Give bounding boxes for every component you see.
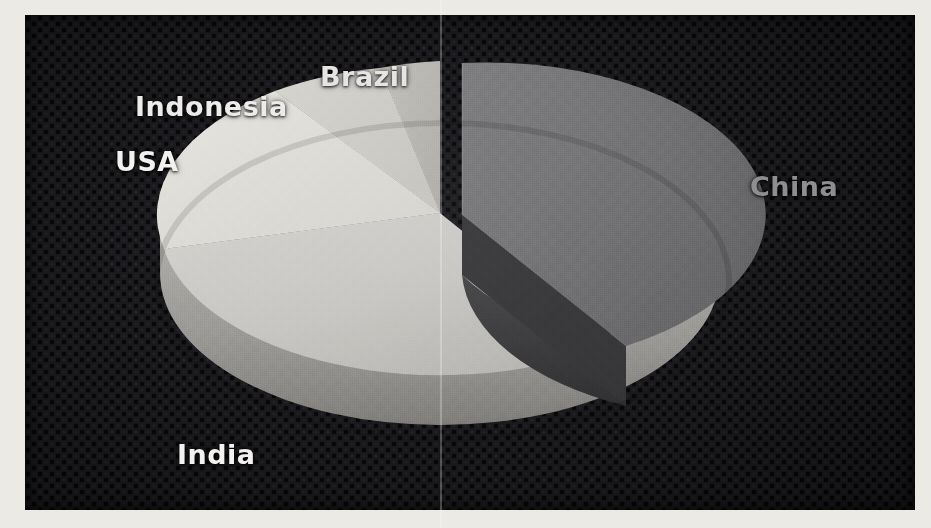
pie-chart-graphic	[25, 15, 915, 510]
scanned-page: China Brazil Indonesia USA India	[0, 0, 931, 528]
pie-label-indonesia: Indonesia	[135, 93, 288, 120]
pie-label-usa: USA	[115, 148, 179, 175]
pie-svg	[25, 15, 915, 510]
pie-chart-panel: China Brazil Indonesia USA India	[25, 15, 915, 510]
pie-label-india: India	[177, 441, 256, 468]
pie-label-brazil: Brazil	[320, 63, 409, 90]
pie-label-china: China	[750, 173, 838, 200]
